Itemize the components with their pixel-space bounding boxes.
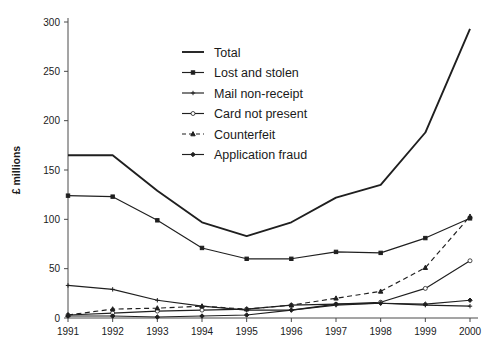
chart-figure: 050100150200250300 199119921993199419951… (0, 0, 489, 359)
legend-label: Total (214, 46, 240, 60)
y-axis: 050100150200250300 (43, 17, 68, 324)
y-tick-label: 250 (43, 66, 60, 77)
data-point-marker (244, 313, 248, 317)
data-point-marker (289, 308, 293, 312)
y-tick-label: 100 (43, 214, 60, 225)
y-tick-label: 150 (43, 165, 60, 176)
legend-item: Total (182, 46, 240, 60)
x-tick-label: 2000 (459, 326, 482, 337)
data-point-marker (423, 286, 427, 290)
legend-item: Application fraud (182, 148, 307, 162)
data-point-marker (66, 194, 69, 197)
data-point-marker (191, 71, 194, 74)
line-chart-canvas: 050100150200250300 199119921993199419951… (0, 0, 489, 359)
data-point-marker (334, 250, 337, 253)
x-tick-label: 1994 (191, 326, 214, 337)
series-line (68, 196, 470, 259)
data-point-marker (191, 112, 195, 116)
data-point-marker (200, 308, 204, 312)
data-point-marker (468, 214, 472, 218)
data-point-marker (290, 257, 293, 260)
data-point-marker (155, 306, 159, 310)
series-line (68, 216, 470, 315)
data-point-marker (468, 259, 472, 263)
chart-legend: TotalLost and stolenMail non-receiptCard… (182, 46, 308, 163)
legend-label: Card not present (214, 107, 308, 121)
legend-label: Lost and stolen (214, 66, 299, 80)
data-point-marker (155, 298, 159, 302)
x-tick-label: 1998 (370, 326, 393, 337)
data-point-marker (200, 246, 203, 249)
x-axis: 1991199219931994199519961997199819992000 (57, 318, 482, 337)
data-point-marker (424, 236, 427, 239)
data-point-marker (334, 296, 338, 300)
y-tick-label: 200 (43, 115, 60, 126)
data-point-marker (379, 251, 382, 254)
x-tick-label: 1995 (236, 326, 259, 337)
legend-label: Application fraud (214, 148, 307, 162)
data-point-marker (110, 307, 114, 311)
data-point-marker (110, 287, 114, 291)
x-tick-label: 1997 (325, 326, 348, 337)
data-point-marker (378, 289, 382, 293)
data-point-marker (191, 91, 195, 95)
x-tick-label: 1996 (280, 326, 303, 337)
legend-label: Mail non-receipt (214, 87, 303, 101)
y-tick-label: 300 (43, 17, 60, 28)
legend-item: Card not present (182, 107, 308, 121)
series-line (68, 261, 470, 315)
legend-item: Lost and stolen (182, 66, 299, 80)
series-card-not-present (66, 259, 472, 317)
data-point-marker (155, 315, 159, 319)
data-point-marker (468, 304, 472, 308)
legend-item: Mail non-receipt (182, 87, 303, 101)
series-mail-non-receipt (66, 283, 472, 312)
y-tick-label: 50 (49, 263, 61, 274)
x-tick-label: 1999 (414, 326, 437, 337)
series-lost-and-stolen (66, 194, 471, 261)
data-point-marker (156, 219, 159, 222)
y-tick-label: 0 (54, 313, 60, 324)
data-point-marker (191, 152, 195, 156)
series-application-fraud (66, 298, 472, 319)
legend-label: Counterfeit (214, 128, 276, 142)
series-line (68, 285, 470, 310)
data-point-marker (191, 132, 195, 136)
data-point-marker (66, 283, 70, 287)
y-axis-title: £ millions (10, 146, 22, 195)
x-tick-label: 1991 (57, 326, 80, 337)
x-tick-label: 1992 (102, 326, 125, 337)
legend-item: Counterfeit (182, 128, 276, 142)
x-tick-label: 1993 (146, 326, 169, 337)
data-point-marker (111, 195, 114, 198)
data-point-marker (245, 257, 248, 260)
data-point-marker (468, 298, 472, 302)
data-point-marker (200, 304, 204, 308)
